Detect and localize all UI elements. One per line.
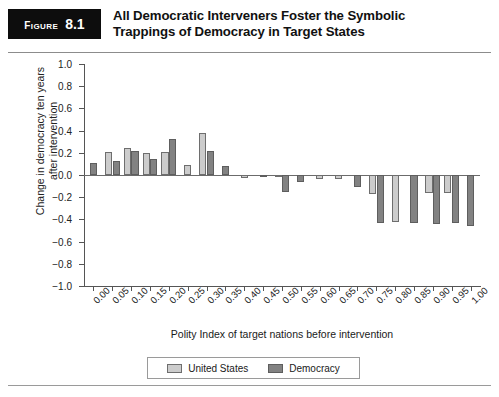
- bar-democracy: [169, 139, 176, 175]
- y-axis-tick-label: −0.4: [52, 214, 72, 225]
- header-divider: [8, 52, 491, 53]
- figure-header: Figure 8.1 All Democratic Interveners Fo…: [8, 8, 491, 48]
- x-axis-tick: [207, 286, 208, 291]
- bar-united-states: [105, 152, 112, 175]
- figure-title-line-1: All Democratic Interveners Foster the Sy…: [113, 8, 405, 24]
- chart-legend: United States Democracy: [147, 357, 360, 379]
- x-axis-tick: [244, 286, 245, 291]
- bar-democracy: [207, 151, 214, 175]
- x-axis-tick: [263, 286, 264, 291]
- bar-united-states: [275, 175, 282, 177]
- x-axis-tick-label: 0.15: [148, 285, 169, 306]
- x-axis-tick: [225, 286, 226, 291]
- bar-united-states: [161, 152, 168, 175]
- bar-democracy: [467, 175, 474, 226]
- bar-democracy: [452, 175, 459, 223]
- figure-title-line-2: Trappings of Democracy in Target States: [113, 24, 405, 40]
- x-axis-tick: [376, 286, 377, 291]
- x-axis-tick-label: 0.95: [450, 285, 471, 306]
- y-axis-tick-label: 0.6: [58, 103, 72, 114]
- x-axis-tick: [395, 286, 396, 291]
- y-axis-tick-label: 0.2: [58, 147, 72, 158]
- x-axis-tick-label: 0.00: [91, 285, 112, 306]
- bar-united-states: [241, 175, 248, 178]
- figure-title: All Democratic Interveners Foster the Sy…: [113, 8, 405, 39]
- bar-democracy: [433, 175, 440, 224]
- y-axis-tick-label: −0.8: [52, 258, 72, 269]
- bar-united-states: [425, 175, 432, 193]
- y-axis-tick: −0.2: [79, 197, 84, 198]
- x-axis-tick-label: 0.60: [318, 285, 339, 306]
- y-axis-tick: 0.8: [79, 86, 84, 87]
- x-axis-tick: [452, 286, 453, 291]
- y-axis-tick-label: −0.6: [52, 236, 72, 247]
- y-axis-tick-label: −0.2: [52, 192, 72, 203]
- y-axis-tick: −0.4: [79, 219, 84, 220]
- bar-united-states: [369, 175, 376, 194]
- y-axis-tick-label: −1.0: [52, 281, 72, 292]
- bar-united-states: [184, 165, 191, 175]
- y-axis-tick: 0.2: [79, 153, 84, 154]
- x-axis-tick: [433, 286, 434, 291]
- x-axis-tick: [112, 286, 113, 291]
- bar-democracy: [297, 175, 304, 182]
- bar-united-states: [143, 153, 150, 175]
- bar-united-states: [444, 175, 451, 193]
- bar-united-states: [124, 148, 131, 175]
- x-axis-tick-label: 0.85: [412, 285, 433, 306]
- y-axis-tick: −0.6: [79, 242, 84, 243]
- bar-democracy: [260, 175, 267, 177]
- y-axis-tick: −1.0: [79, 286, 84, 287]
- x-axis-tick: [414, 286, 415, 291]
- legend-label-democracy: Democracy: [289, 363, 340, 374]
- x-axis-tick: [282, 286, 283, 291]
- x-axis-tick-label: 0.35: [223, 285, 244, 306]
- bar-democracy: [150, 159, 157, 175]
- x-axis-tick-label: 0.05: [110, 285, 131, 306]
- bar-democracy: [377, 175, 384, 223]
- x-axis-tick: [169, 286, 170, 291]
- x-axis-tick: [339, 286, 340, 291]
- bar-democracy: [410, 175, 417, 223]
- plot-region: 1.00.80.60.40.20.0−0.2−0.4−0.6−0.8−1.0 0…: [84, 64, 480, 286]
- y-axis-tick: −0.8: [79, 264, 84, 265]
- x-axis-tick-label: 0.50: [280, 285, 301, 306]
- x-axis-tick: [301, 286, 302, 291]
- x-axis-tick: [357, 286, 358, 291]
- x-axis-tick-label: 0.75: [374, 285, 395, 306]
- y-axis-tick-label: 0.8: [58, 81, 72, 92]
- x-axis-tick: [93, 286, 94, 291]
- x-axis-tick-label: 1.00: [469, 285, 490, 306]
- x-axis-tick-label: 0.55: [299, 285, 320, 306]
- x-axis-tick-label: 0.30: [205, 285, 226, 306]
- bar-democracy: [222, 166, 229, 175]
- x-axis-tick-label: 0.70: [355, 285, 376, 306]
- bar-united-states: [199, 133, 206, 175]
- y-axis-tick-label: 0.0: [58, 170, 72, 181]
- x-axis-tick-label: 0.40: [242, 285, 263, 306]
- x-axis-tick-label: 0.45: [261, 285, 282, 306]
- x-axis-tick: [320, 286, 321, 291]
- y-axis-tick: 1.0: [79, 64, 84, 65]
- bar-democracy: [90, 163, 97, 175]
- legend-item-democracy: Democracy: [268, 363, 340, 374]
- figure-badge-number: 8.1: [65, 16, 84, 32]
- x-axis-tick-label: 0.25: [186, 285, 207, 306]
- bar-democracy: [354, 175, 361, 187]
- x-axis-tick: [188, 286, 189, 291]
- bar-democracy: [131, 151, 138, 175]
- x-axis-tick: [471, 286, 472, 291]
- chart-area: Change in democracy ten years after inte…: [0, 56, 499, 356]
- bar-democracy: [113, 161, 120, 175]
- x-axis-title: Polity Index of target nations before in…: [84, 328, 480, 340]
- legend-swatch-united-states: [167, 364, 182, 373]
- x-axis-tick: [131, 286, 132, 291]
- legend-label-united-states: United States: [188, 363, 248, 374]
- x-axis-tick-label: 0.10: [129, 285, 150, 306]
- x-axis-tick-label: 0.65: [337, 285, 358, 306]
- bar-united-states: [316, 175, 323, 179]
- bar-united-states: [392, 175, 399, 222]
- legend-item-united-states: United States: [167, 363, 248, 374]
- y-axis-tick-label: 1.0: [58, 59, 72, 70]
- x-axis-tick-label: 0.80: [393, 285, 414, 306]
